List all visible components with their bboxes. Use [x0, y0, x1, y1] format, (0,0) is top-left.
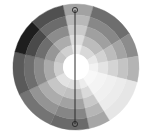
- wheel-cell: [107, 60, 118, 77]
- wheel-cell: [67, 25, 87, 36]
- wheel-center: [63, 54, 89, 80]
- wheel-cell: [117, 58, 128, 80]
- grayscale-value-wheel: [0, 0, 149, 133]
- wheel-cell: [126, 56, 139, 82]
